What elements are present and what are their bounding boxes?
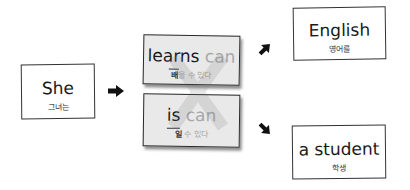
subject-en: She (22, 78, 94, 99)
arrow-up-right-icon (258, 42, 272, 56)
object-ko: 학생 (293, 162, 385, 174)
object-en: a student (293, 139, 385, 160)
object-ko: 영어를 (294, 42, 385, 54)
object-card-english: English 영어를 (293, 6, 387, 60)
object-en: English (294, 19, 385, 40)
subject-card: She 그녀는 (21, 64, 96, 120)
object-card-student: a student 학생 (292, 125, 387, 180)
subject-ko: 그녀는 (22, 101, 94, 113)
arrow-right-icon (108, 85, 124, 97)
x-mark-icon (168, 52, 228, 132)
arrow-down-right-icon (258, 122, 272, 136)
